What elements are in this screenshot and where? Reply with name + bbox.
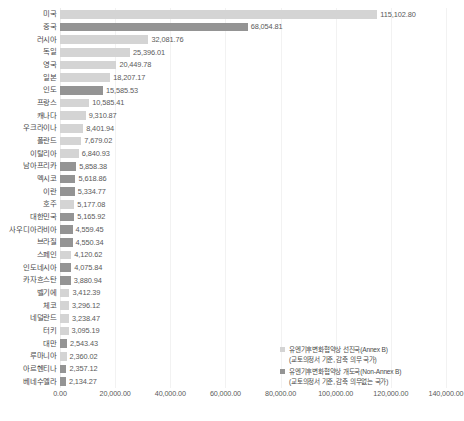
bar-row: 4,075.84 — [60, 263, 446, 272]
legend-sublabel: (교토의정서 기준, 감축 의무없는 국가) — [289, 377, 401, 387]
x-axis-tick-label: 100,000.00 — [318, 390, 353, 397]
bar — [60, 73, 110, 82]
category-label: 이란 — [0, 188, 57, 195]
bar — [60, 225, 73, 234]
bar — [60, 10, 377, 19]
category-label: 일본 — [0, 74, 57, 81]
category-label: 영국 — [0, 61, 57, 68]
bar — [60, 238, 73, 247]
bar — [60, 251, 71, 260]
bar-value-label: 6,840.93 — [82, 150, 110, 157]
bar-value-label: 5,177.08 — [77, 201, 105, 208]
legend-swatch-icon — [280, 369, 285, 374]
bar — [60, 175, 75, 184]
bar — [60, 48, 130, 57]
bar — [60, 187, 75, 196]
category-label: 루마니아 — [0, 352, 57, 359]
bar-value-label: 4,559.45 — [76, 226, 104, 233]
category-label: 호주 — [0, 200, 57, 207]
bar-value-label: 2,360.02 — [70, 353, 98, 360]
bar-value-label: 18,207.17 — [113, 74, 145, 81]
bar-value-label: 3,880.94 — [74, 277, 102, 284]
bar — [60, 99, 89, 108]
category-label: 인도네시아 — [0, 264, 57, 271]
bar-value-label: 2,357.12 — [69, 365, 97, 372]
category-label: 스페인 — [0, 251, 57, 258]
legend-label: 유엔기후변화협약상 개도국(Non-Annex B)(교토의정서 기준, 감축 … — [289, 367, 401, 386]
bar — [60, 339, 67, 348]
category-label: 남아프리카 — [0, 162, 57, 169]
plot-area: 115,102.8068,054.8132,081.7625,396.0120,… — [60, 8, 446, 388]
category-label: 베네수엘라 — [0, 378, 57, 385]
category-label: 러시아 — [0, 36, 57, 43]
category-label: 이탈리아 — [0, 150, 57, 157]
bar-row: 4,550.34 — [60, 238, 446, 247]
bar-row: 3,296.12 — [60, 301, 446, 310]
bar-value-label: 8,401.94 — [86, 125, 114, 132]
bar — [60, 23, 248, 32]
x-axis-tick-label: 140,000.00 — [429, 390, 464, 397]
bar — [60, 377, 66, 386]
bar — [60, 289, 69, 298]
gridline — [446, 8, 447, 388]
bar-row: 25,396.01 — [60, 48, 446, 57]
bar-value-label: 5,334.77 — [78, 188, 106, 195]
x-axis-tick-label: 0.00 — [53, 390, 67, 397]
bar-value-label: 4,075.84 — [74, 264, 102, 271]
bar — [60, 213, 74, 222]
category-label: 인도 — [0, 86, 57, 93]
legend-item[interactable]: 유엔기후변화협약상 개도국(Non-Annex B)(교토의정서 기준, 감축 … — [280, 367, 452, 386]
bar-value-label: 32,081.76 — [151, 36, 183, 43]
category-axis: 미국중국러시아독일영국일본인도프랑스캐나다우크라이나폴란드이탈리아남아프리카멕시… — [0, 8, 57, 388]
bar-row: 8,401.94 — [60, 124, 446, 133]
bar-row: 4,120.62 — [60, 251, 446, 260]
legend-item[interactable]: 유엔기후변화협약상 선진국(Annex B)(교토의정서 기준, 감축 의무 국… — [280, 345, 452, 364]
bar-value-label: 15,585.53 — [106, 87, 138, 94]
bar — [60, 162, 76, 171]
category-label: 프랑스 — [0, 99, 57, 106]
bar — [60, 365, 66, 374]
bar-value-label: 7,679.02 — [84, 137, 112, 144]
bar-row: 15,585.53 — [60, 86, 446, 95]
bar-row: 9,310.87 — [60, 111, 446, 120]
bar-row: 3,095.19 — [60, 327, 446, 336]
bar-value-label: 5,165.92 — [77, 213, 105, 220]
category-label: 폴란드 — [0, 137, 57, 144]
bar — [60, 314, 69, 323]
bar-value-label: 25,396.01 — [133, 49, 165, 56]
bar-value-label: 68,054.81 — [251, 23, 283, 30]
category-label: 독일 — [0, 48, 57, 55]
bar-row: 5,334.77 — [60, 187, 446, 196]
bar-row: 68,054.81 — [60, 23, 446, 32]
bar-row: 5,165.92 — [60, 213, 446, 222]
bar — [60, 61, 116, 70]
legend-sublabel: (교토의정서 기준, 감축 의무 국가) — [289, 355, 388, 365]
bar-row: 7,679.02 — [60, 137, 446, 146]
bar-row: 3,412.39 — [60, 289, 446, 298]
bar — [60, 149, 79, 158]
bar-value-label: 2,134.27 — [69, 378, 97, 385]
bar-row: 6,840.93 — [60, 149, 446, 158]
category-label: 체코 — [0, 302, 57, 309]
bar — [60, 200, 74, 209]
x-axis-tick-label: 60,000.00 — [210, 390, 241, 397]
bar-row: 115,102.80 — [60, 10, 446, 19]
category-label: 벨기에 — [0, 289, 57, 296]
category-label: 네덜란드 — [0, 314, 57, 321]
bar-value-label: 4,120.62 — [74, 251, 102, 258]
category-label: 우크라이나 — [0, 124, 57, 131]
category-label: 사우디아라비아 — [0, 226, 57, 233]
bar — [60, 301, 69, 310]
bar-row: 10,585.41 — [60, 99, 446, 108]
category-label: 대만 — [0, 340, 57, 347]
bar-row: 32,081.76 — [60, 35, 446, 44]
bar-value-label: 3,238.47 — [72, 315, 100, 322]
category-label: 멕시코 — [0, 175, 57, 182]
category-label: 카자흐스탄 — [0, 276, 57, 283]
bar-row: 18,207.17 — [60, 73, 446, 82]
bar-row: 5,618.86 — [60, 175, 446, 184]
bar-row: 3,880.94 — [60, 276, 446, 285]
bar-value-label: 5,858.38 — [79, 163, 107, 170]
bar — [60, 352, 67, 361]
